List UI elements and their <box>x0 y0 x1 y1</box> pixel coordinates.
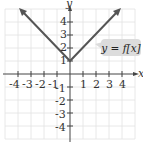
y-tick-label: 3 <box>60 29 67 40</box>
x-tick-label: -4 <box>9 79 20 90</box>
y-tick-label: -3 <box>55 109 66 120</box>
x-tick-label: 3 <box>106 79 113 90</box>
graph-canvas <box>0 0 143 148</box>
y-tick-label: -4 <box>55 122 66 133</box>
x-axis-label: x <box>138 68 143 79</box>
x-tick-label: 2 <box>93 79 100 90</box>
y-tick-label: 2 <box>60 42 67 53</box>
x-tick-label: 1 <box>80 79 87 90</box>
y-tick-label: 4 <box>60 16 67 27</box>
y-tick-label: 1 <box>60 55 67 66</box>
y-axis-label: y <box>66 0 72 9</box>
x-tick-label: -3 <box>22 79 33 90</box>
x-tick-label: 4 <box>119 79 126 90</box>
axes <box>3 5 139 142</box>
x-tick-label: -2 <box>35 79 46 90</box>
function-label-callout: y = f[x] <box>101 39 141 56</box>
y-tick-label: -1 <box>55 83 66 94</box>
y-tick-label: -2 <box>55 96 66 107</box>
